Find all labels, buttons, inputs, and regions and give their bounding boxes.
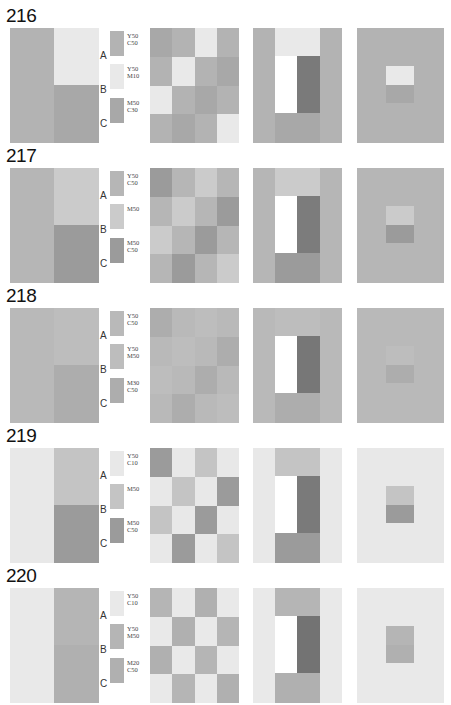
checker-cell — [172, 308, 194, 337]
checker-cell — [172, 506, 194, 535]
target-bottom-box — [386, 645, 414, 663]
swatch-a-code: Y50C50 — [127, 172, 138, 186]
checker-cell — [217, 308, 239, 337]
checker-cell — [150, 308, 172, 337]
target-bottom-box — [386, 505, 414, 523]
u-left-side — [253, 448, 275, 563]
block-left-a — [10, 448, 54, 563]
target-panel — [357, 588, 444, 703]
letter-c: C — [100, 258, 107, 269]
checker-cell — [195, 448, 217, 477]
block-top-right-b — [54, 168, 99, 225]
checker-cell — [150, 617, 172, 646]
block-bottom-right-c — [54, 225, 99, 283]
checker-cell — [195, 477, 217, 506]
checker-cell — [150, 168, 172, 197]
block-left-a — [10, 28, 54, 143]
checker-cell — [150, 114, 172, 143]
figure-row: 218 A B C Y50C50 Y50M50 M30C50 — [0, 285, 451, 425]
swatch-letters: A B C — [99, 168, 109, 283]
checker-cell — [195, 506, 217, 535]
block-bottom-right-c — [54, 85, 99, 143]
block-top-right-b — [54, 28, 99, 85]
block-top-right-b — [54, 308, 99, 365]
target-bottom-box — [386, 85, 414, 103]
swatch-letters: A B C — [99, 448, 109, 563]
u-dark-bar — [297, 196, 320, 253]
figure-row: 216 A B C Y50C50 Y50M10 M50C30 — [0, 5, 451, 145]
u-white-hole — [275, 336, 297, 393]
checker-cell — [172, 254, 194, 283]
checker-cell — [150, 534, 172, 563]
target-top-box — [386, 486, 414, 505]
u-bottom — [275, 533, 320, 563]
u-shape-panel — [253, 168, 342, 283]
block-left-a — [10, 168, 54, 283]
letter-a: A — [100, 330, 107, 341]
target-panel — [357, 308, 444, 423]
swatch-b — [110, 624, 124, 649]
target-panel — [357, 168, 444, 283]
checker-cell — [217, 254, 239, 283]
u-bottom — [275, 253, 320, 283]
swatch-a-code: Y50C50 — [127, 312, 138, 326]
u-left-side — [253, 588, 275, 703]
checker-cell — [150, 506, 172, 535]
checker-cell — [195, 28, 217, 57]
letter-a: A — [100, 610, 107, 621]
checker-cell — [150, 646, 172, 675]
u-top — [275, 168, 320, 196]
checker-cell — [217, 646, 239, 675]
checker-cell — [172, 57, 194, 86]
checker-cell — [150, 366, 172, 395]
swatch-c-code: M20C50 — [127, 659, 139, 673]
letter-b: B — [100, 364, 107, 375]
swatch-a — [110, 591, 124, 616]
figure-number: 220 — [6, 565, 36, 587]
u-white-hole — [275, 196, 297, 253]
checker-cell — [217, 57, 239, 86]
swatch-c — [110, 658, 124, 683]
checker-cell — [172, 477, 194, 506]
u-white-hole — [275, 56, 297, 113]
checker-cell — [217, 226, 239, 255]
checker-cell — [150, 28, 172, 57]
swatch-a — [110, 451, 124, 476]
swatch-c-code: M30C50 — [127, 379, 139, 393]
checker-cell — [195, 308, 217, 337]
checker-cell — [150, 337, 172, 366]
large-comparison-block — [10, 28, 99, 143]
swatch-b-code: Y50M50 — [127, 625, 139, 639]
checkerboard-panel — [150, 28, 239, 143]
checker-cell — [217, 588, 239, 617]
checker-cell — [150, 197, 172, 226]
target-panel — [357, 28, 444, 143]
checker-cell — [195, 226, 217, 255]
u-left-side — [253, 28, 275, 143]
letter-b: B — [100, 504, 107, 515]
checker-cell — [195, 254, 217, 283]
checker-cell — [195, 646, 217, 675]
letter-c: C — [100, 398, 107, 409]
u-top — [275, 308, 320, 336]
u-left-side — [253, 308, 275, 423]
checker-cell — [195, 394, 217, 423]
u-dark-bar — [297, 476, 320, 533]
swatch-c — [110, 238, 124, 263]
u-white-hole — [275, 616, 297, 673]
u-right-side — [320, 308, 342, 423]
checker-cell — [195, 86, 217, 115]
figure-row: 219 A B C Y50C10 M50 M50C50 — [0, 425, 451, 565]
checkerboard-panel — [150, 448, 239, 563]
letter-b: B — [100, 224, 107, 235]
checker-cell — [150, 226, 172, 255]
letter-c: C — [100, 538, 107, 549]
swatch-letters: A B C — [99, 308, 109, 423]
checker-cell — [172, 168, 194, 197]
swatch-b-code: M50 — [127, 205, 139, 212]
u-shape-panel — [253, 28, 342, 143]
block-bottom-right-c — [54, 645, 99, 703]
u-dark-bar — [297, 56, 320, 113]
u-white-hole — [275, 476, 297, 533]
swatch-letters: A B C — [99, 28, 109, 143]
